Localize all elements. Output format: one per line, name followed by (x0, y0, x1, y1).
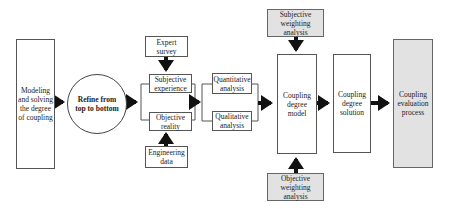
subjective-experience-label: Subjective experience (151, 75, 190, 93)
coupling-evaluation-label: Coupling evaluation process (395, 90, 431, 117)
refine-circle: Refine from top to bottom (67, 74, 127, 134)
engineering-data-box: Engineering data (145, 146, 188, 168)
coupling-solution-box: Coupling degree solution (333, 54, 371, 153)
coupling-model-box: Coupling degree model (277, 54, 317, 154)
coupling-solution-label: Coupling degree solution (335, 90, 369, 117)
qualitative-analysis-label: Qualitative analysis (214, 112, 250, 130)
modeling-label: Modeling and solving the degree of coupl… (18, 86, 53, 122)
coupling-evaluation-box: Coupling evaluation process (393, 39, 433, 168)
qualitative-analysis-box: Qualitative analysis (212, 111, 252, 131)
subjective-experience-box: Subjective experience (149, 74, 192, 93)
coupling-model-label: Coupling degree model (279, 91, 315, 118)
expert-survey-box: Expert survey (145, 36, 188, 57)
engineering-data-label: Engineering data (147, 148, 186, 166)
expert-survey-label: Expert survey (147, 38, 186, 56)
quantitative-analysis-label: Quantitative analysis (213, 75, 250, 93)
objective-weighting-box: Objective weighting analysis (267, 173, 324, 201)
subjective-weighting-label: Subjective weighting analysis (269, 10, 322, 37)
objective-reality-box: Objective reality (149, 112, 192, 131)
objective-reality-label: Objective reality (151, 113, 190, 131)
objective-weighting-label: Objective weighting analysis (269, 174, 322, 201)
refine-label: Refine from top to bottom (74, 95, 120, 114)
quantitative-analysis-box: Quantitative analysis (212, 73, 252, 94)
subjective-weighting-box: Subjective weighting analysis (267, 9, 324, 37)
modeling-box: Modeling and solving the degree of coupl… (16, 39, 55, 169)
